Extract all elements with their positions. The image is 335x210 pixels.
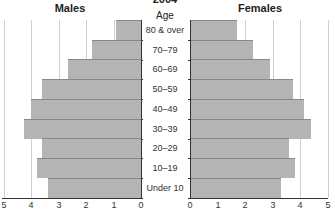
female-bar (190, 138, 289, 158)
male-bar (42, 138, 141, 158)
male-bar (31, 99, 141, 119)
males-title: Males (0, 2, 140, 14)
age-label: 40–49 (140, 104, 190, 114)
x-tick-label: 5 (0, 200, 11, 210)
gridline (328, 20, 329, 198)
age-label: 20–29 (140, 143, 190, 153)
x-tick-label: 2 (79, 200, 93, 210)
male-bar (24, 119, 141, 139)
female-bar (190, 99, 304, 119)
male-bar (116, 20, 141, 40)
age-label: 70–79 (140, 45, 190, 55)
x-tick-label: 1 (107, 200, 121, 210)
male-x-axis (2, 198, 142, 199)
male-bar (92, 40, 142, 60)
x-tick-label: 0 (183, 200, 197, 210)
x-tick-label: 0 (134, 200, 148, 210)
male-bar (42, 79, 141, 99)
female-bar (190, 20, 237, 40)
female-bar (190, 40, 253, 60)
x-tick-label: 3 (52, 200, 66, 210)
male-axis (141, 20, 142, 198)
female-bar (190, 158, 295, 178)
female-axis (190, 20, 191, 198)
age-label: Under 10 (140, 183, 190, 193)
age-label: 80 & over (140, 25, 190, 35)
male-bar (68, 59, 141, 79)
x-tick-label: 1 (211, 200, 225, 210)
age-label: 30–39 (140, 124, 190, 134)
female-x-axis (190, 198, 328, 199)
age-label: 60–69 (140, 64, 190, 74)
age-header: Age (140, 10, 190, 21)
x-tick-label: 3 (266, 200, 280, 210)
male-bar (48, 178, 142, 198)
females-title: Females (190, 2, 330, 14)
male-bar (37, 158, 142, 178)
female-bar (190, 178, 281, 198)
female-bar (190, 79, 293, 99)
x-tick-label: 4 (24, 200, 38, 210)
x-tick-label: 5 (321, 200, 335, 210)
gridline (4, 20, 5, 198)
age-label: 50–59 (140, 84, 190, 94)
female-bar (190, 119, 311, 139)
x-tick-label: 4 (293, 200, 307, 210)
x-tick-label: 2 (238, 200, 252, 210)
female-bar (190, 59, 270, 79)
age-label: 10–19 (140, 163, 190, 173)
